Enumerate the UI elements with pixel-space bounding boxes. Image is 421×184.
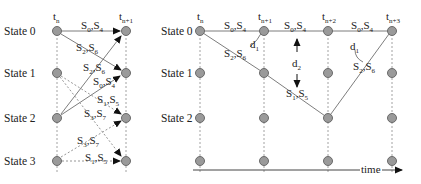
edge-label: S1,S5 <box>85 151 108 166</box>
time-label-tn2: tn+2 <box>322 10 337 25</box>
node <box>196 114 205 123</box>
right-trellis: time tn tn+1 tn+2 tn+3 State 0 State 1 S… <box>161 10 402 175</box>
state-label: State 2 <box>4 112 36 124</box>
edge-label: S1,S5 <box>97 93 120 108</box>
state-label: State 1 <box>161 67 193 79</box>
path-label: S2,S6 <box>353 60 376 75</box>
trellis-diagram-figure: tn tn+1 State 0 State 1 State 2 State 3 … <box>0 0 421 184</box>
state-label: State 0 <box>4 25 36 37</box>
distance-label-d1: d1 <box>250 38 260 53</box>
node <box>122 114 131 123</box>
time-label-tn: tn <box>197 10 204 25</box>
path-label: S1,S5 <box>286 87 309 102</box>
node <box>196 69 205 78</box>
distance-label-d2: d2 <box>292 57 302 72</box>
time-axis-label: time <box>361 163 381 175</box>
node <box>53 157 62 166</box>
node <box>122 69 131 78</box>
edge-label: S2,S6 <box>76 41 99 56</box>
node <box>324 157 333 166</box>
node <box>53 114 62 123</box>
node <box>196 157 205 166</box>
node <box>324 69 333 78</box>
time-label-tn1: tn+1 <box>119 10 134 25</box>
node <box>122 157 131 166</box>
node <box>260 157 269 166</box>
time-label-tn1: tn+1 <box>258 10 273 25</box>
state-label: State 0 <box>161 25 193 37</box>
node <box>196 27 205 36</box>
edge-label: S0,S4 <box>93 75 116 90</box>
path-label: S0,S4 <box>284 19 307 34</box>
node <box>53 27 62 36</box>
state-label: State 2 <box>161 112 193 124</box>
path-label: S0,S4 <box>351 19 374 34</box>
state-label: State 1 <box>4 67 36 79</box>
node <box>388 114 397 123</box>
path-diverging <box>203 33 389 118</box>
node <box>260 114 269 123</box>
state-label: State 3 <box>4 155 36 167</box>
node <box>260 27 269 36</box>
path-label: S2,S6 <box>224 47 247 62</box>
edge-label: S3,S7 <box>84 107 107 122</box>
time-label-tn: tn <box>53 10 60 25</box>
distance-label-d1: d1 <box>350 40 360 55</box>
edge-label: S2,S6 <box>83 61 106 76</box>
path-label: S0,S4 <box>224 19 247 34</box>
node <box>122 27 131 36</box>
left-trellis: tn tn+1 State 0 State 1 State 2 State 3 … <box>4 10 134 172</box>
edge-label: S0,S4 <box>81 19 104 34</box>
node <box>388 157 397 166</box>
node <box>324 114 333 123</box>
node <box>260 69 269 78</box>
node <box>388 69 397 78</box>
node <box>53 69 62 78</box>
node <box>324 27 333 36</box>
time-label-tn3: tn+3 <box>386 10 401 25</box>
node <box>388 27 397 36</box>
